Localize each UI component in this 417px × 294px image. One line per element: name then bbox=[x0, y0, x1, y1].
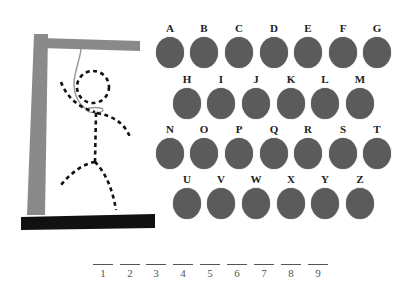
letter-button-z[interactable]: Z bbox=[345, 173, 375, 221]
letter-disc[interactable] bbox=[363, 37, 391, 68]
letter-label: N bbox=[155, 123, 185, 135]
slot-underline bbox=[120, 264, 140, 265]
letter-button-y[interactable]: Y bbox=[310, 173, 340, 221]
letter-disc[interactable] bbox=[294, 138, 322, 169]
letter-button-q[interactable]: Q bbox=[259, 123, 289, 171]
letter-label: M bbox=[345, 73, 375, 85]
slot-underline bbox=[146, 264, 166, 265]
letter-disc[interactable] bbox=[225, 37, 253, 68]
letter-button-u[interactable]: U bbox=[172, 173, 202, 221]
slot-underline bbox=[200, 264, 220, 265]
letter-disc[interactable] bbox=[190, 138, 218, 169]
letter-button-d[interactable]: D bbox=[259, 22, 289, 70]
slot-number: 6 bbox=[227, 267, 247, 279]
letter-label: O bbox=[189, 123, 219, 135]
slot-number: 8 bbox=[281, 267, 301, 279]
letter-label: T bbox=[362, 123, 392, 135]
slot-number: 2 bbox=[120, 267, 140, 279]
slot-underline bbox=[254, 264, 274, 265]
letter-disc[interactable] bbox=[260, 138, 288, 169]
letter-label: J bbox=[241, 73, 271, 85]
gallows-beam bbox=[40, 38, 140, 51]
letter-button-x[interactable]: X bbox=[276, 173, 306, 221]
letter-disc[interactable] bbox=[156, 37, 184, 68]
letter-label: A bbox=[155, 22, 185, 34]
letter-label: Y bbox=[310, 173, 340, 185]
letter-disc[interactable] bbox=[363, 138, 391, 169]
letter-label: Z bbox=[345, 173, 375, 185]
letter-button-s[interactable]: S bbox=[328, 123, 358, 171]
slot-number: 1 bbox=[93, 267, 113, 279]
stick-figure bbox=[61, 71, 130, 210]
hangman-drawing bbox=[0, 0, 160, 240]
letter-disc[interactable] bbox=[277, 188, 305, 219]
letter-button-k[interactable]: K bbox=[276, 73, 306, 121]
letter-button-m[interactable]: M bbox=[345, 73, 375, 121]
slot-number: 4 bbox=[173, 267, 193, 279]
letter-disc[interactable] bbox=[346, 188, 374, 219]
letter-button-h[interactable]: H bbox=[172, 73, 202, 121]
letter-button-p[interactable]: P bbox=[224, 123, 254, 171]
slot-underline bbox=[308, 264, 328, 265]
letter-disc[interactable] bbox=[207, 88, 235, 119]
letter-label: H bbox=[172, 73, 202, 85]
letter-label: B bbox=[189, 22, 219, 34]
word-slot-8: 8 bbox=[281, 264, 301, 284]
letter-button-l[interactable]: L bbox=[310, 73, 340, 121]
slot-underline bbox=[227, 264, 247, 265]
word-slot-4: 4 bbox=[173, 264, 193, 284]
slot-underline bbox=[281, 264, 301, 265]
gallows-post bbox=[27, 34, 48, 215]
letter-label: P bbox=[224, 123, 254, 135]
letter-disc[interactable] bbox=[173, 88, 201, 119]
letter-button-t[interactable]: T bbox=[362, 123, 392, 171]
word-slot-1: 1 bbox=[93, 264, 113, 284]
letter-button-c[interactable]: C bbox=[224, 22, 254, 70]
letter-button-r[interactable]: R bbox=[293, 123, 323, 171]
letter-disc[interactable] bbox=[329, 37, 357, 68]
letter-button-w[interactable]: W bbox=[241, 173, 271, 221]
letter-label: X bbox=[276, 173, 306, 185]
letter-label: E bbox=[293, 22, 323, 34]
figure-right-arm bbox=[97, 113, 130, 137]
slot-number: 7 bbox=[254, 267, 274, 279]
letter-button-e[interactable]: E bbox=[293, 22, 323, 70]
letter-button-v[interactable]: V bbox=[206, 173, 236, 221]
letter-label: R bbox=[293, 123, 323, 135]
letter-button-a[interactable]: A bbox=[155, 22, 185, 70]
letter-button-g[interactable]: G bbox=[362, 22, 392, 70]
letter-button-i[interactable]: I bbox=[206, 73, 236, 121]
letter-label: W bbox=[241, 173, 271, 185]
letter-button-o[interactable]: O bbox=[189, 123, 219, 171]
slot-number: 3 bbox=[146, 267, 166, 279]
letter-label: G bbox=[362, 22, 392, 34]
letter-disc[interactable] bbox=[207, 188, 235, 219]
word-slot-2: 2 bbox=[120, 264, 140, 284]
letter-disc[interactable] bbox=[277, 88, 305, 119]
letter-button-j[interactable]: J bbox=[241, 73, 271, 121]
letter-label: I bbox=[206, 73, 236, 85]
letter-disc[interactable] bbox=[329, 138, 357, 169]
letter-disc[interactable] bbox=[311, 188, 339, 219]
letter-disc[interactable] bbox=[311, 88, 339, 119]
slot-underline bbox=[93, 264, 113, 265]
letter-label: F bbox=[328, 22, 358, 34]
letter-disc[interactable] bbox=[156, 138, 184, 169]
slot-underline bbox=[173, 264, 193, 265]
letter-button-b[interactable]: B bbox=[189, 22, 219, 70]
letter-button-n[interactable]: N bbox=[155, 123, 185, 171]
letter-disc[interactable] bbox=[260, 37, 288, 68]
letter-disc[interactable] bbox=[190, 37, 218, 68]
letter-disc[interactable] bbox=[294, 37, 322, 68]
slot-number: 9 bbox=[308, 267, 328, 279]
letter-button-f[interactable]: F bbox=[328, 22, 358, 70]
letter-disc[interactable] bbox=[242, 88, 270, 119]
gallows-base bbox=[21, 214, 155, 230]
word-slot-5: 5 bbox=[200, 264, 220, 284]
slot-number: 5 bbox=[200, 267, 220, 279]
letter-disc[interactable] bbox=[242, 188, 270, 219]
letter-disc[interactable] bbox=[173, 188, 201, 219]
word-slot-6: 6 bbox=[227, 264, 247, 284]
letter-disc[interactable] bbox=[346, 88, 374, 119]
letter-disc[interactable] bbox=[225, 138, 253, 169]
